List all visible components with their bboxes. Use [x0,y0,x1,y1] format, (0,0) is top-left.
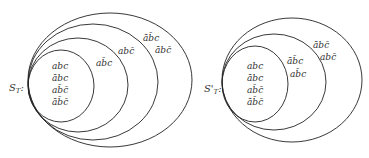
region-label: abc̄ [320,52,337,62]
region-label: ābc [52,73,68,83]
region-label: ābc [247,73,263,83]
region-label: abc̄ [118,46,135,56]
region-label: ab̄c̄ [247,84,264,95]
ring-2 [28,38,128,132]
ring-inner [222,46,288,122]
region-label: ab̄c [290,68,306,79]
region-label: ab̄c̄ [52,84,69,95]
region-label: āb̄c̄ [247,96,264,107]
region-label: āb̄c [143,32,159,43]
set-label: ST: [9,82,24,95]
region-label: abc [247,61,263,71]
diagram-s-t: ST: abc ābc ab̄c̄ āb̄c̄ ab̄c abc̄ āb̄c ā… [9,13,192,147]
diagram-s-prime-t: S'T: abc ābc ab̄c̄ āb̄c̄ āb̄c ab̄c ābc̄ … [204,18,362,142]
region-label: ābc̄ [155,45,172,55]
region-label: ābc̄ [313,40,330,50]
region-label: āb̄c̄ [52,96,69,107]
region-label: āb̄c [287,55,303,66]
region-label: ab̄c [96,57,112,68]
nested-set-diagrams: ST: abc ābc ab̄c̄ āb̄c̄ ab̄c abc̄ āb̄c ā… [0,0,369,158]
region-label: abc [52,61,68,71]
set-label: S'T: [204,83,222,96]
